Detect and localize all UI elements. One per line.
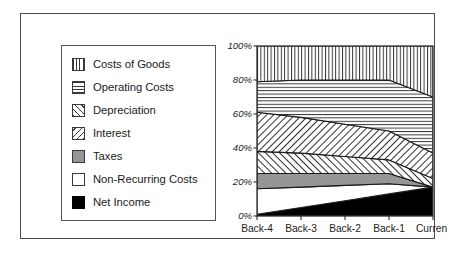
- legend-item-operating-costs: Operating Costs: [62, 76, 215, 99]
- legend-item-taxes: Taxes: [62, 145, 215, 168]
- legend-item-label: Depreciation: [93, 104, 156, 117]
- x-axis-tick-labels: Back-4Back-3Back-2Back-1Current: [241, 223, 447, 234]
- legend-item-interest: Interest: [62, 122, 215, 145]
- legend-item-label: Non-Recurring Costs: [93, 173, 198, 186]
- solid-black-swatch-icon: [72, 196, 85, 209]
- x-tick-label: Current: [416, 223, 447, 234]
- plot-area: 0%20%40%60%80%100% Back-4Back-3Back-2Bac…: [225, 38, 447, 238]
- x-tick-label: Back-2: [329, 223, 361, 234]
- x-tick-label: Back-3: [285, 223, 317, 234]
- legend-item-net-income: Net Income: [62, 191, 215, 214]
- y-axis-tick-labels: 0%20%40%60%80%100%: [227, 40, 252, 221]
- y-tick-label: 20%: [232, 176, 253, 187]
- area-series-group: [257, 46, 433, 216]
- y-tick-label: 80%: [233, 74, 253, 85]
- chart-legend: Costs of Goods Operating Costs Depreciat…: [61, 45, 216, 221]
- horizontal-lines-swatch-icon: [72, 81, 85, 94]
- legend-item-label: Operating Costs: [93, 81, 174, 94]
- legend-item-label: Costs of Goods: [93, 58, 170, 71]
- legend-item-label: Net Income: [93, 196, 150, 209]
- y-tick-label: 60%: [233, 108, 253, 119]
- x-tick-label: Back-1: [373, 223, 405, 234]
- diagonal-down-hatch-swatch-icon: [72, 127, 85, 140]
- y-tick-label: 40%: [233, 142, 253, 153]
- legend-item-label: Taxes: [93, 150, 122, 163]
- y-tick-label: 0%: [238, 210, 252, 221]
- legend-item-depreciation: Depreciation: [62, 99, 215, 122]
- legend-item-label: Interest: [93, 127, 130, 140]
- legend-item-costs-of-goods: Costs of Goods: [62, 53, 215, 76]
- vertical-lines-swatch-icon: [72, 58, 85, 71]
- stacked-area-chart: 0%20%40%60%80%100% Back-4Back-3Back-2Bac…: [225, 38, 447, 238]
- solid-white-swatch-icon: [72, 173, 85, 186]
- legend-item-non-recurring-costs: Non-Recurring Costs: [62, 168, 215, 191]
- y-tick-label: 100%: [227, 40, 252, 51]
- x-tick-label: Back-4: [241, 223, 273, 234]
- diagonal-up-hatch-swatch-icon: [72, 104, 85, 117]
- solid-gray-swatch-icon: [72, 150, 85, 163]
- chart-figure: Costs of Goods Operating Costs Depreciat…: [0, 0, 458, 253]
- figure-frame: Costs of Goods Operating Costs Depreciat…: [20, 13, 435, 239]
